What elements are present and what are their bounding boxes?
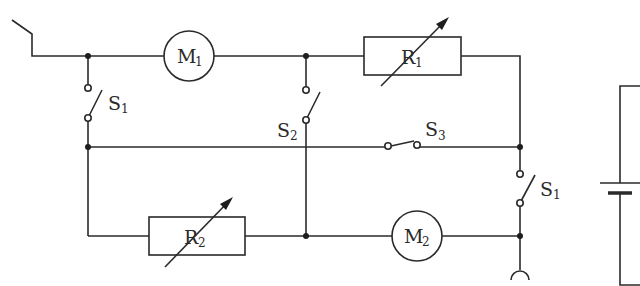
- motor-m2-letter: M: [404, 225, 423, 247]
- motor-m2-index: 2: [422, 235, 430, 249]
- junction-dot: [517, 233, 523, 239]
- switch-s2: S 2: [277, 87, 320, 143]
- switch-s1-right-index: 1: [553, 188, 561, 202]
- circuit-diagram: M 1 R 1 S 1 S 2 S 3: [0, 0, 640, 286]
- wire-top-right: [461, 56, 520, 147]
- junction-dot: [303, 53, 309, 59]
- switch-s3-index: 3: [438, 129, 446, 143]
- junction-dot: [303, 233, 309, 239]
- switch-s2-index: 2: [290, 129, 298, 143]
- switch-s1-left-letter: S: [108, 92, 121, 114]
- switch-s3-letter: S: [425, 118, 438, 140]
- rheostat-r1-index: 1: [415, 56, 423, 70]
- switch-s2-letter: S: [277, 119, 290, 141]
- bottom-terminal-icon: [511, 271, 529, 280]
- switch-s3: S 3: [385, 118, 446, 149]
- rheostat-r1-letter: R: [401, 46, 416, 68]
- rheostat-r2-letter: R: [184, 226, 199, 248]
- switch-s1-left: S 1: [85, 85, 129, 121]
- battery: [600, 86, 640, 285]
- junction-dot: [85, 144, 91, 150]
- junction-dot: [85, 53, 91, 59]
- switch-s1-left-index: 1: [121, 102, 129, 116]
- battery-wire-bottom: [620, 193, 640, 285]
- motor-m1-index: 1: [195, 55, 203, 69]
- switch-s1-right-letter: S: [540, 178, 553, 200]
- motor-m2: M 2: [392, 211, 442, 261]
- junction-dot: [517, 144, 523, 150]
- rheostat-r1: R 1: [364, 17, 461, 86]
- battery-wire-top: [620, 86, 640, 183]
- motor-m1-letter: M: [177, 45, 196, 67]
- rheostat-r2-index: 2: [198, 236, 206, 250]
- zigzag-lead: [12, 20, 88, 56]
- rheostat-r2: R 2: [149, 197, 245, 267]
- motor-m1: M 1: [164, 31, 214, 81]
- switch-s1-right: S 1: [517, 171, 561, 206]
